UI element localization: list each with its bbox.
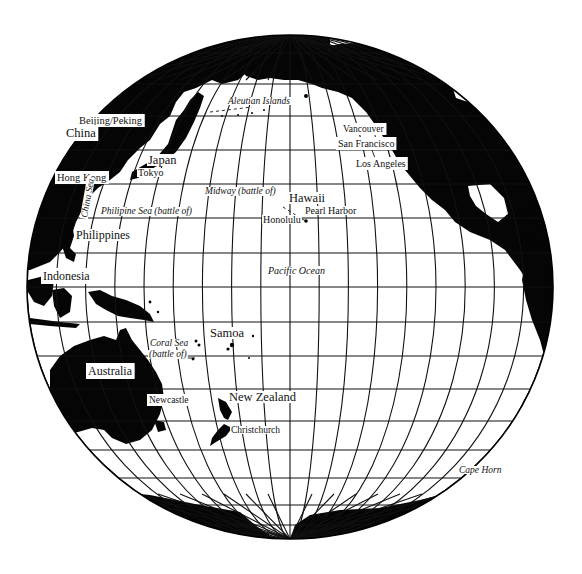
svg-text:Tokyo: Tokyo <box>138 167 163 178</box>
svg-text:Cape Horn: Cape Horn <box>459 465 502 475</box>
svg-text:Los Angeles: Los Angeles <box>356 158 406 169</box>
label-pearl-harbor: Pearl Harbor <box>304 205 358 216</box>
label-coral-sea-battle: (battle of) <box>148 349 188 360</box>
label-honolulu: Honolulu <box>262 214 302 225</box>
label-san-francisco: San Francisco <box>336 137 396 150</box>
label-vancouver: Vancouver <box>341 123 386 135</box>
svg-text:Hawaii: Hawaii <box>289 191 326 205</box>
svg-text:Japan: Japan <box>148 153 177 167</box>
svg-text:Christchurch: Christchurch <box>231 425 280 435</box>
svg-text:Australia: Australia <box>88 364 133 378</box>
label-philippines: Philippines <box>75 228 131 242</box>
label-aleutian-islands: Aleutian Islands <box>226 96 291 106</box>
label-midway: Midway (battle of) <box>203 186 277 197</box>
svg-text:Philipine Sea (battle of): Philipine Sea (battle of) <box>100 206 192 217</box>
label-pacific-ocean: Pacific Ocean <box>266 265 326 276</box>
label-cape-horn: Cape Horn <box>458 465 503 475</box>
label-coral-sea: Coral Sea <box>149 338 190 348</box>
svg-text:Pacific Ocean: Pacific Ocean <box>267 265 325 276</box>
label-hong-kong: Hong Kong <box>55 171 109 184</box>
svg-text:Hong Kong: Hong Kong <box>57 172 107 183</box>
svg-text:San Francisco: San Francisco <box>338 138 394 149</box>
label-japan: Japan <box>147 153 178 167</box>
label-hawaii: Hawaii <box>288 191 327 205</box>
svg-text:China: China <box>66 126 96 140</box>
svg-text:Midway (battle of): Midway (battle of) <box>204 186 276 197</box>
label-tokyo: Tokyo <box>137 167 164 178</box>
label-new-zealand: New Zealand <box>228 390 298 404</box>
label-los-angeles: Los Angeles <box>354 157 408 170</box>
svg-text:Philippines: Philippines <box>76 228 130 242</box>
label-indonesia: Indonesia <box>41 268 92 284</box>
svg-text:Samoa: Samoa <box>210 326 244 340</box>
svg-text:Vancouver: Vancouver <box>343 124 384 134</box>
svg-text:New Zealand: New Zealand <box>229 390 297 404</box>
svg-text:Aleutian Islands: Aleutian Islands <box>227 96 290 106</box>
svg-text:Coral Sea: Coral Sea <box>150 338 189 348</box>
globe-map: Beijing/Peking China Hong Kong China Sea… <box>0 0 582 574</box>
svg-text:Honolulu: Honolulu <box>263 214 301 225</box>
svg-text:Newcastle: Newcastle <box>149 395 189 405</box>
svg-text:Pearl Harbor: Pearl Harbor <box>305 205 357 216</box>
svg-text:Indonesia: Indonesia <box>43 269 90 283</box>
label-australia: Australia <box>86 363 135 379</box>
svg-text:(battle of): (battle of) <box>149 349 187 360</box>
label-philipine-sea: Philipine Sea (battle of) <box>99 206 193 217</box>
label-christchurch: Christchurch <box>230 425 281 435</box>
svg-text:Beijing/Peking: Beijing/Peking <box>79 115 143 126</box>
label-china: China <box>64 125 98 141</box>
label-samoa: Samoa <box>209 326 245 340</box>
label-newcastle: Newcastle <box>147 394 191 406</box>
